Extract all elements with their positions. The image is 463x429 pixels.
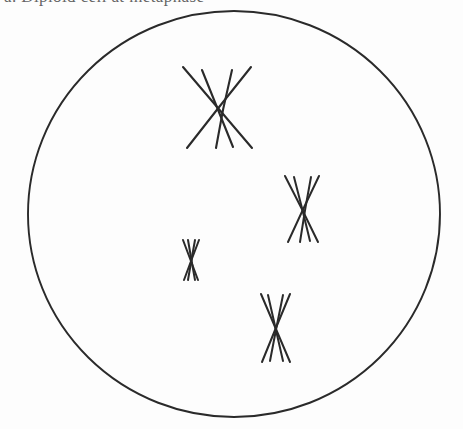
tetrad-4-medium [261,294,290,362]
chromosome-layer [183,67,319,362]
cell-diagram [0,0,463,429]
tetrad-3-small [183,240,199,280]
tetrad-1-large [183,67,252,148]
figure-root: a. Diploid cell at metaphase [0,0,463,429]
cell-membrane-outline [28,11,440,417]
tetrad-2-medium [285,176,319,242]
